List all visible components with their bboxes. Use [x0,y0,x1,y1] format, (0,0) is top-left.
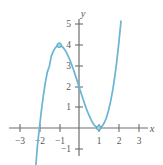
y-tick-label--1: −1 [61,144,71,154]
x-axis-label: x [149,123,155,134]
x-tick-label--2: −2 [35,136,45,146]
x-tick-label--3: −3 [15,136,25,146]
graph-figure: −3 −2 −1 1 2 3 5 4 3 2 1 −1 x y [0,0,163,165]
x-tick-label-3: 3 [137,136,142,146]
y-axis-tick-labels: 5 4 3 2 1 −1 [61,19,71,154]
cubic-curve [33,21,121,165]
y-tick-label-1: 1 [66,102,71,112]
y-tick-label-4: 4 [66,40,71,50]
y-axis-label: y [80,8,86,19]
y-tick-label-2: 2 [66,82,71,92]
marker-local-minimum [97,126,102,131]
x-tick-label-1: 1 [97,136,102,146]
x-tick-label-2: 2 [117,136,122,146]
y-tick-label-5: 5 [66,19,71,29]
plot-canvas: −3 −2 −1 1 2 3 5 4 3 2 1 −1 x y [0,0,163,165]
marker-local-maximum [57,43,62,48]
x-axis-tick-labels: −3 −2 −1 1 2 3 [15,136,142,146]
